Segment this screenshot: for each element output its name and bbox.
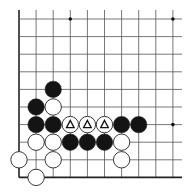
star-point [171, 123, 175, 127]
white-stone [96, 116, 112, 132]
black-stone [45, 81, 61, 97]
white-stone [45, 99, 61, 115]
white-stone-disc [45, 99, 61, 115]
black-stone [62, 134, 78, 150]
white-stone [45, 134, 61, 150]
white-stone-disc [79, 116, 95, 132]
black-stone-disc [113, 116, 129, 132]
black-stone-disc [62, 134, 78, 150]
white-stone-disc [45, 152, 61, 168]
white-stone [79, 116, 95, 132]
black-stone [113, 116, 129, 132]
white-stone-disc [96, 116, 112, 132]
black-stone [79, 134, 95, 150]
black-stone [131, 116, 147, 132]
black-stone-disc [79, 134, 95, 150]
white-stone-disc [113, 134, 129, 150]
white-stone-disc [28, 169, 44, 185]
white-stone-disc [11, 152, 27, 168]
black-stone-disc [45, 116, 61, 132]
stones [11, 81, 147, 185]
black-stone-disc [96, 134, 112, 150]
white-stone-disc [113, 152, 129, 168]
black-stone [28, 99, 44, 115]
white-stone [28, 134, 44, 150]
white-stone [62, 116, 78, 132]
white-stone-disc [45, 134, 61, 150]
white-stone [113, 134, 129, 150]
black-stone [45, 116, 61, 132]
white-stone-disc [28, 134, 44, 150]
white-stone [11, 152, 27, 168]
black-stone-disc [28, 99, 44, 115]
black-stone-disc [45, 81, 61, 97]
star-point [69, 17, 73, 21]
white-stone [45, 152, 61, 168]
grid-lines [19, 10, 182, 177]
black-stone [28, 116, 44, 132]
star-point [171, 17, 175, 21]
black-stone-disc [131, 116, 147, 132]
black-stone [96, 134, 112, 150]
white-stone [113, 152, 129, 168]
go-board [0, 0, 193, 193]
black-stone-disc [28, 116, 44, 132]
white-stone [28, 169, 44, 185]
white-stone-disc [62, 116, 78, 132]
